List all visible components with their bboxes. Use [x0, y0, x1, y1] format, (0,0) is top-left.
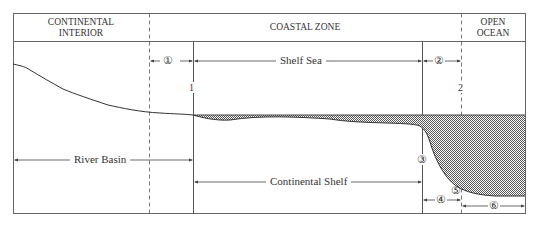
header-continental-interior: CONTINENTAL INTERIOR	[13, 17, 149, 39]
zone-6-label: ⑥	[488, 200, 500, 211]
sea-water-area	[193, 115, 525, 196]
header-coastal-zone: COASTAL ZONE	[149, 22, 461, 33]
zone-4-label: ④	[435, 194, 447, 205]
continental-shelf-label: Continental Shelf	[266, 176, 351, 187]
header-zone-line2: OCEAN	[461, 28, 525, 39]
header-zone-line2: INTERIOR	[13, 28, 149, 39]
header-zone-line1: COASTAL ZONE	[149, 22, 461, 33]
zone-2-label: ②	[433, 55, 445, 66]
river-basin-label: River Basin	[70, 154, 130, 165]
header-open-ocean: OPEN OCEAN	[461, 17, 525, 39]
zone-5-label: ⑤	[451, 185, 461, 196]
line-1-marker: 1	[189, 82, 194, 93]
zone-3-label: ③	[416, 154, 428, 165]
header-zone-line1: CONTINENTAL	[13, 17, 149, 28]
header-zone-line1: OPEN	[461, 17, 525, 28]
line-2-marker: 2	[458, 82, 463, 93]
shelf-sea-label: Shelf Sea	[276, 55, 326, 66]
zone-1-label: ①	[162, 55, 174, 66]
